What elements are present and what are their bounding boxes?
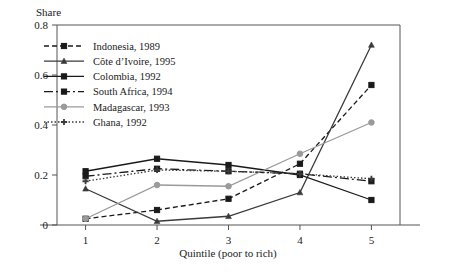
data-point-marker	[369, 120, 375, 126]
series-5	[82, 167, 374, 184]
legend-item-4: Madagascar, 1993	[44, 102, 170, 113]
x-tick-label: 5	[369, 234, 375, 246]
data-point-marker	[226, 183, 232, 189]
legend-label: Ghana, 1992	[93, 117, 147, 128]
data-point-marker	[83, 216, 89, 222]
data-point-marker	[297, 161, 302, 166]
legend-marker	[61, 74, 66, 79]
data-point-marker	[154, 182, 160, 188]
legend-item-1: Côte d’Ivoire, 1995	[44, 56, 176, 67]
legend-marker	[61, 104, 67, 110]
data-point-marker	[154, 207, 159, 212]
data-point-marker	[83, 186, 89, 191]
legend-label: South Africa, 1994	[93, 86, 173, 97]
legend-item-3: South Africa, 1994	[44, 86, 173, 97]
y-axis-label: Share	[36, 6, 61, 18]
data-point-marker	[297, 189, 303, 194]
x-tick-label: 1	[83, 234, 89, 246]
data-point-marker	[154, 156, 159, 161]
chart-legend: Indonesia, 1989Côte d’Ivoire, 1995Colomb…	[44, 41, 176, 128]
y-tick-label: 0.6	[34, 69, 48, 81]
data-point-marker	[369, 82, 374, 87]
chart-container: 00.20.40.60.8 12345 Share Indonesia, 198…	[0, 0, 451, 274]
share-by-quintile-line-chart: 00.20.40.60.8 12345 Share Indonesia, 198…	[0, 0, 451, 274]
data-point-marker	[369, 42, 375, 47]
legend-marker	[61, 43, 66, 48]
data-point-marker	[226, 196, 231, 201]
y-tick-label: 0	[43, 219, 49, 231]
legend-marker	[61, 89, 66, 94]
y-tick-label: 0.4	[34, 119, 48, 131]
legend-label: Madagascar, 1993	[93, 102, 170, 113]
data-point-marker	[83, 174, 88, 179]
legend-label: Colombia, 1992	[93, 71, 161, 82]
data-point-marker	[226, 162, 231, 167]
legend-item-5: Ghana, 1992	[44, 117, 147, 128]
data-point-marker	[83, 169, 88, 174]
series-2	[83, 156, 374, 202]
legend-marker	[61, 119, 67, 125]
legend-label: Côte d’Ivoire, 1995	[93, 56, 176, 67]
x-axis-title: Quintile (poor to rich)	[179, 247, 277, 260]
y-tick-label: 0.8	[34, 19, 48, 31]
x-tick-label: 4	[297, 234, 303, 246]
x-tick-label: 3	[226, 234, 232, 246]
series-layer	[82, 42, 374, 224]
legend-item-2: Colombia, 1992	[44, 71, 161, 82]
data-point-marker	[297, 151, 303, 157]
y-axis-ticks: 00.20.40.60.8	[34, 19, 57, 231]
x-axis-ticks: 12345	[83, 225, 375, 246]
data-point-marker	[369, 197, 374, 202]
y-tick-label: 0.2	[34, 169, 48, 181]
legend-label: Indonesia, 1989	[93, 41, 160, 52]
x-tick-label: 2	[154, 234, 160, 246]
legend-item-0: Indonesia, 1989	[44, 41, 160, 52]
